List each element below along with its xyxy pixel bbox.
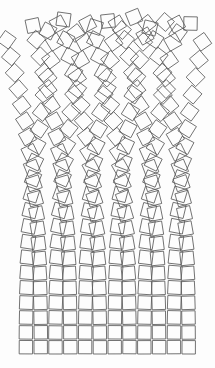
schotter-square <box>33 296 47 310</box>
schotter-square <box>9 80 28 99</box>
schotter-square <box>74 112 93 131</box>
schotter-square <box>108 311 122 325</box>
schotter-square <box>101 96 120 115</box>
schotter-square <box>138 296 152 310</box>
schotter-square <box>97 68 116 87</box>
schotter-square <box>79 15 97 33</box>
schotter-square <box>152 311 166 325</box>
schotter-square <box>108 296 122 310</box>
schotter-square <box>49 280 63 294</box>
schotter-square <box>64 64 82 82</box>
schotter-square <box>167 296 181 310</box>
schotter-square <box>151 266 165 280</box>
schotter-square <box>181 281 195 295</box>
schotter-square <box>136 27 154 45</box>
schotter-square <box>19 340 32 353</box>
schotter-square <box>175 190 192 207</box>
schotter-square <box>25 18 41 34</box>
schotter-square <box>48 128 66 146</box>
schotter-square <box>23 186 40 203</box>
schotter-square <box>180 102 199 121</box>
schotter-square <box>121 266 136 281</box>
schotter-square <box>34 326 48 340</box>
schotter-square <box>148 120 167 139</box>
schotter-square <box>127 68 146 87</box>
schotter-square <box>57 190 73 206</box>
schotter-square <box>33 281 47 295</box>
schotter-square <box>186 68 205 87</box>
schotter-square <box>49 311 63 325</box>
schotter-square <box>152 296 166 310</box>
schotter-square <box>149 236 164 251</box>
schotter-square <box>89 221 105 237</box>
schotter-square <box>101 50 120 69</box>
schotter-square <box>35 63 54 82</box>
schotter-square <box>20 281 34 295</box>
schotter-square <box>125 8 142 25</box>
schotter-square <box>92 266 107 281</box>
schotter-square <box>182 311 196 325</box>
schotter-square <box>0 30 16 49</box>
schotter-square <box>131 96 150 115</box>
schotter-square <box>138 281 152 295</box>
schotter-square <box>27 190 43 206</box>
schotter-square <box>94 64 112 82</box>
schotter-square <box>34 311 48 325</box>
schotter-square <box>20 265 34 279</box>
schotter-square <box>180 266 194 280</box>
schotter-square <box>42 50 61 69</box>
schotter-square <box>78 340 91 353</box>
schotter-square <box>123 340 136 353</box>
schotter-square <box>108 340 121 353</box>
schotter-square <box>169 24 188 43</box>
schotter-square <box>139 234 154 249</box>
schotter-square <box>157 68 176 87</box>
schotter-square <box>138 311 152 325</box>
schotter-square <box>49 341 62 354</box>
schotter-square <box>153 63 172 82</box>
schotter-square <box>123 63 142 82</box>
schotter-square <box>123 326 137 340</box>
schotter-square <box>149 47 168 66</box>
schotter-square <box>138 265 152 279</box>
schotter-square <box>30 120 49 139</box>
schotter-square <box>122 296 136 310</box>
schotter-square <box>64 326 77 339</box>
schotter-square <box>79 281 93 295</box>
schotter-square <box>137 14 156 33</box>
schotter-square <box>38 68 57 87</box>
schotter-square <box>137 128 155 146</box>
schotter-square <box>160 51 179 70</box>
schotter-square <box>119 236 135 252</box>
schotter-square <box>167 340 180 353</box>
schotter-square <box>78 326 92 340</box>
schotter-square <box>122 311 136 325</box>
schotter-square <box>49 296 63 310</box>
schotter-artwork-frame <box>0 0 215 368</box>
schotter-square <box>57 31 75 49</box>
schotter-square <box>138 326 152 340</box>
schotter-square <box>93 296 107 310</box>
schotter-square <box>31 236 46 251</box>
schotter-square <box>49 265 64 280</box>
schotter-square <box>63 281 77 295</box>
schotter-square <box>152 340 165 353</box>
schotter-square <box>68 68 87 87</box>
schotter-square <box>19 326 33 340</box>
schotter-square <box>92 281 106 295</box>
schotter-square <box>163 112 182 131</box>
schotter-square <box>181 296 195 310</box>
schotter-square <box>33 266 47 280</box>
schotter-square <box>151 281 165 295</box>
schotter-square <box>189 50 208 69</box>
squares-layer <box>0 8 212 354</box>
schotter-square <box>171 186 188 203</box>
schotter-square <box>93 311 107 325</box>
schotter-square <box>19 311 33 325</box>
schotter-square <box>90 47 108 65</box>
schotter-canvas <box>0 0 215 368</box>
schotter-square <box>193 32 212 51</box>
schotter-square <box>49 15 67 33</box>
schotter-square <box>71 50 89 68</box>
schotter-square <box>64 340 77 353</box>
